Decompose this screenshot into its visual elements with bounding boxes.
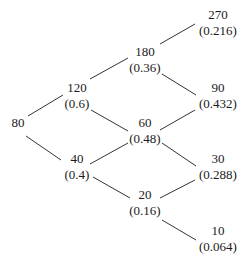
- node-probability: (0.16): [129, 203, 160, 219]
- node-value: 10: [199, 223, 237, 239]
- tree-node-n1d: 40(0.4): [65, 151, 90, 183]
- node-value: 30: [199, 151, 237, 167]
- edge-n0-n1d: [26, 136, 61, 160]
- tree-node-n3udd: 30(0.288): [199, 151, 237, 183]
- node-value: 120: [65, 80, 90, 96]
- edge-n2ud-n3udd: [162, 143, 196, 166]
- node-probability: (0.6): [65, 96, 90, 112]
- node-value: 80: [12, 115, 25, 131]
- edge-n2dd-n3udd: [160, 180, 195, 198]
- tree-node-n0: 80: [12, 115, 25, 131]
- node-probability: (0.36): [129, 60, 160, 76]
- edge-n0-n1u: [28, 95, 63, 116]
- node-probability: (0.064): [199, 239, 237, 255]
- node-probability: (0.432): [199, 96, 237, 112]
- edge-n1u-n2uu: [90, 58, 128, 79]
- node-value: 40: [65, 151, 90, 167]
- tree-node-n3ddd: 10(0.064): [199, 223, 237, 255]
- tree-node-n3uud: 90(0.432): [199, 80, 237, 112]
- tree-node-n2ud: 60(0.48): [129, 115, 160, 147]
- node-value: 90: [199, 80, 237, 96]
- tree-node-n2dd: 20(0.16): [129, 187, 160, 219]
- node-value: 20: [129, 187, 160, 203]
- edge-n2uu-n3uuu: [160, 24, 195, 44]
- edge-n1d-n2ud: [90, 143, 128, 164]
- node-value: 270: [199, 7, 237, 23]
- edge-n1d-n2dd: [93, 177, 130, 198]
- node-value: 60: [129, 115, 160, 131]
- node-probability: (0.4): [65, 167, 90, 183]
- edge-n2ud-n3uud: [160, 110, 195, 130]
- edge-n1u-n2ud: [91, 110, 128, 131]
- tree-node-n1u: 120(0.6): [65, 80, 90, 112]
- node-value: 180: [129, 44, 160, 60]
- tree-node-n3uuu: 270(0.216): [199, 7, 237, 39]
- edge-n2dd-n3ddd: [162, 220, 196, 240]
- node-probability: (0.216): [199, 23, 237, 39]
- node-probability: (0.48): [129, 131, 160, 147]
- edge-n2uu-n3uud: [162, 74, 196, 95]
- tree-node-n2uu: 180(0.36): [129, 44, 160, 76]
- node-probability: (0.288): [199, 167, 237, 183]
